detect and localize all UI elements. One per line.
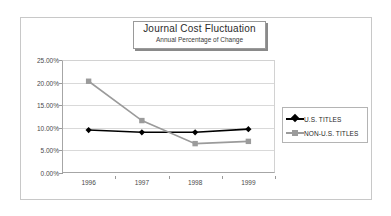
data-point-marker [192,141,197,146]
y-axis-tick-label: 20.00% [37,79,59,86]
y-axis-labels: 0.00%5.00%10.00%15.00%20.00%25.00% [26,60,59,173]
legend-label-non-us-titles: NON-U.S. TITLES [304,130,358,137]
chart-legend: U.S. TITLES NON-U.S. TITLES [282,107,368,143]
legend-key-square-icon [286,128,304,138]
data-point-marker [139,118,144,123]
x-axis-tick-mark [222,176,223,179]
x-axis-labels: 1996199719981999 [62,176,275,190]
x-axis-tick-mark [169,176,170,179]
chart-screenshot: Journal Cost Fluctuation Annual Percenta… [0,0,391,216]
plot-area [62,60,275,173]
legend-item-us-titles: U.S. TITLES [286,112,364,126]
x-axis-tick-label: 1996 [81,179,95,186]
legend-label-us-titles: U.S. TITLES [304,116,341,123]
y-axis-tick-label: 15.00% [37,102,59,109]
legend-key-diamond-icon [286,114,304,124]
data-point-marker [192,129,198,135]
legend-item-non-us-titles: NON-U.S. TITLES [286,126,364,140]
y-axis-tick-label: 10.00% [37,124,59,131]
x-axis-tick-label: 1999 [241,179,255,186]
chart-title-box: Journal Cost Fluctuation Annual Percenta… [133,21,266,49]
x-axis-tick-mark [115,176,116,179]
data-point-marker [246,139,251,144]
x-axis-tick-mark [275,176,276,179]
data-series-layer [62,60,275,173]
data-point-marker [245,126,251,132]
y-axis-tick-label: 0.00% [41,170,59,177]
x-axis-tick-label: 1998 [188,179,202,186]
y-axis-tick-label: 5.00% [41,147,59,154]
chart-title: Journal Cost Fluctuation [134,23,265,35]
y-axis-tick-label: 25.00% [37,57,59,64]
series-line [89,81,249,143]
data-point-marker [139,129,145,135]
x-axis-tick-label: 1997 [135,179,149,186]
chart-subtitle: Annual Percentage of Change [134,35,265,44]
data-point-marker [86,79,91,84]
data-point-marker [86,127,92,133]
y-axis-tick-mark [59,173,63,174]
